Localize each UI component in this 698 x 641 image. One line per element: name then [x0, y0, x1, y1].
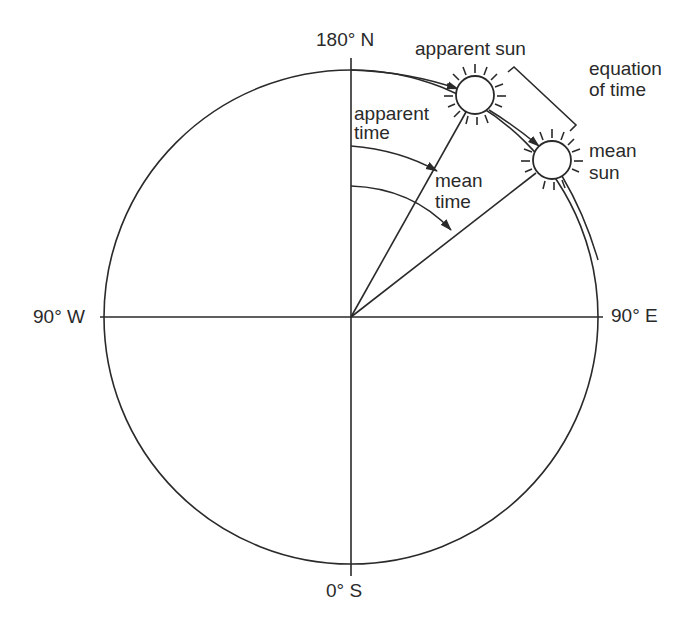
orbit-arrow-to-apparent-sun: [351, 70, 458, 89]
label-mean-sun-2: sun: [589, 162, 620, 183]
orbit-arrow-apparent-to-mean: [489, 110, 539, 146]
label-east: 90° E: [611, 305, 658, 326]
orbit-arc-from-mean-sun: [562, 176, 598, 260]
label-mean-sun-1: mean: [589, 140, 637, 161]
label-north: 180° N: [316, 29, 374, 50]
label-mean-time-2: time: [435, 191, 471, 212]
label-equation-of-time-2: of time: [589, 79, 646, 100]
label-apparent-time-2: time: [354, 122, 390, 143]
label-apparent-sun: apparent sun: [415, 38, 526, 59]
label-west: 90° W: [33, 306, 85, 327]
label-apparent-time-1: apparent: [354, 103, 429, 124]
equation-of-time-bracket: [508, 67, 576, 131]
apparent-time-arrow: [351, 146, 437, 171]
label-mean-time-1: mean: [435, 170, 483, 191]
label-south: 0° S: [326, 580, 362, 601]
apparent-sun-icon: [444, 64, 506, 125]
label-equation-of-time-1: equation: [589, 58, 662, 79]
